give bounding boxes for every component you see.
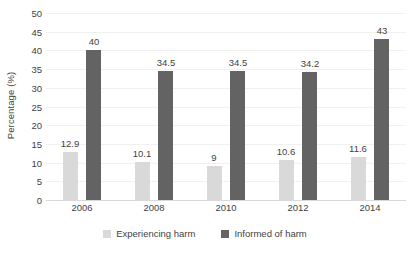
bar: 34.5 <box>158 71 173 200</box>
y-axis-tick-label: 0 <box>37 195 42 206</box>
bar-value-label: 40 <box>89 36 100 47</box>
bar-group: 11.643 <box>334 13 406 200</box>
y-axis-title-text: Percentage (%) <box>6 71 17 138</box>
bar-value-label: 43 <box>377 25 388 36</box>
y-axis-tick-label: 40 <box>31 45 42 56</box>
bar-slot: 10.6 <box>274 13 298 200</box>
legend-swatch-icon <box>103 230 111 238</box>
bar-slot: 43 <box>370 13 394 200</box>
x-axis-tick-label: 2014 <box>334 202 406 220</box>
bar-value-label: 12.9 <box>61 138 80 149</box>
bar-value-label: 9 <box>211 152 216 163</box>
plot-area: 12.94010.134.5934.510.634.211.643 <box>46 13 406 200</box>
bar: 34.5 <box>230 71 245 200</box>
bar-slot: 11.6 <box>346 13 370 200</box>
bar-slot: 9 <box>202 13 226 200</box>
y-axis-tick-label: 10 <box>31 157 42 168</box>
bar-group: 10.634.2 <box>262 13 334 200</box>
legend-label: Informed of harm <box>234 228 306 239</box>
bar-value-label: 34.5 <box>157 57 176 68</box>
y-axis-tick-label: 25 <box>31 101 42 112</box>
bar-slot: 34.5 <box>154 13 178 200</box>
y-axis-tick-label: 30 <box>31 82 42 93</box>
x-axis-tick-label: 2006 <box>46 202 118 220</box>
y-axis-tick-label: 20 <box>31 120 42 131</box>
bar-value-label: 11.6 <box>349 143 367 154</box>
y-axis-tick-label: 35 <box>31 64 42 75</box>
legend-label: Experiencing harm <box>116 228 195 239</box>
bar-slot: 34.2 <box>298 13 322 200</box>
y-axis-tick-label: 50 <box>31 8 42 19</box>
bar-group: 934.5 <box>190 13 262 200</box>
x-axis-tick-labels: 20062008201020122014 <box>46 202 406 220</box>
bar: 34.2 <box>302 72 317 200</box>
bar-slot: 12.9 <box>58 13 82 200</box>
axis-baseline <box>46 200 406 201</box>
bar: 12.9 <box>63 152 78 200</box>
bar-group: 10.134.5 <box>118 13 190 200</box>
bar-slot: 40 <box>82 13 106 200</box>
x-axis-tick-label: 2008 <box>118 202 190 220</box>
bar-value-label: 10.1 <box>133 148 152 159</box>
y-axis-tick-label: 45 <box>31 26 42 37</box>
legend-item[interactable]: Experiencing harm <box>103 228 195 239</box>
bar-groups: 12.94010.134.5934.510.634.211.643 <box>46 13 406 200</box>
bar-slot: 10.1 <box>130 13 154 200</box>
legend-item[interactable]: Informed of harm <box>221 228 306 239</box>
bar-value-label: 34.2 <box>301 58 320 69</box>
bar-chart: Percentage (%) 05101520253035404550 12.9… <box>0 0 410 255</box>
bar: 40 <box>86 50 101 200</box>
x-axis-tick-label: 2010 <box>190 202 262 220</box>
bar: 11.6 <box>351 157 366 200</box>
y-axis-tick-label: 5 <box>37 176 42 187</box>
bar-slot: 34.5 <box>226 13 250 200</box>
bar-value-label: 10.6 <box>277 146 296 157</box>
y-axis-tick-label: 15 <box>31 138 42 149</box>
chart-legend: Experiencing harmInformed of harm <box>0 228 410 239</box>
bar-value-label: 34.5 <box>229 57 248 68</box>
bar: 10.6 <box>279 160 294 200</box>
bar-group: 12.940 <box>46 13 118 200</box>
y-axis-tick-labels: 05101520253035404550 <box>22 13 46 200</box>
bar: 10.1 <box>135 162 150 200</box>
bar: 43 <box>374 39 389 200</box>
legend-swatch-icon <box>221 230 229 238</box>
x-axis-tick-label: 2012 <box>262 202 334 220</box>
y-axis-title: Percentage (%) <box>0 0 22 210</box>
bar: 9 <box>207 166 222 200</box>
